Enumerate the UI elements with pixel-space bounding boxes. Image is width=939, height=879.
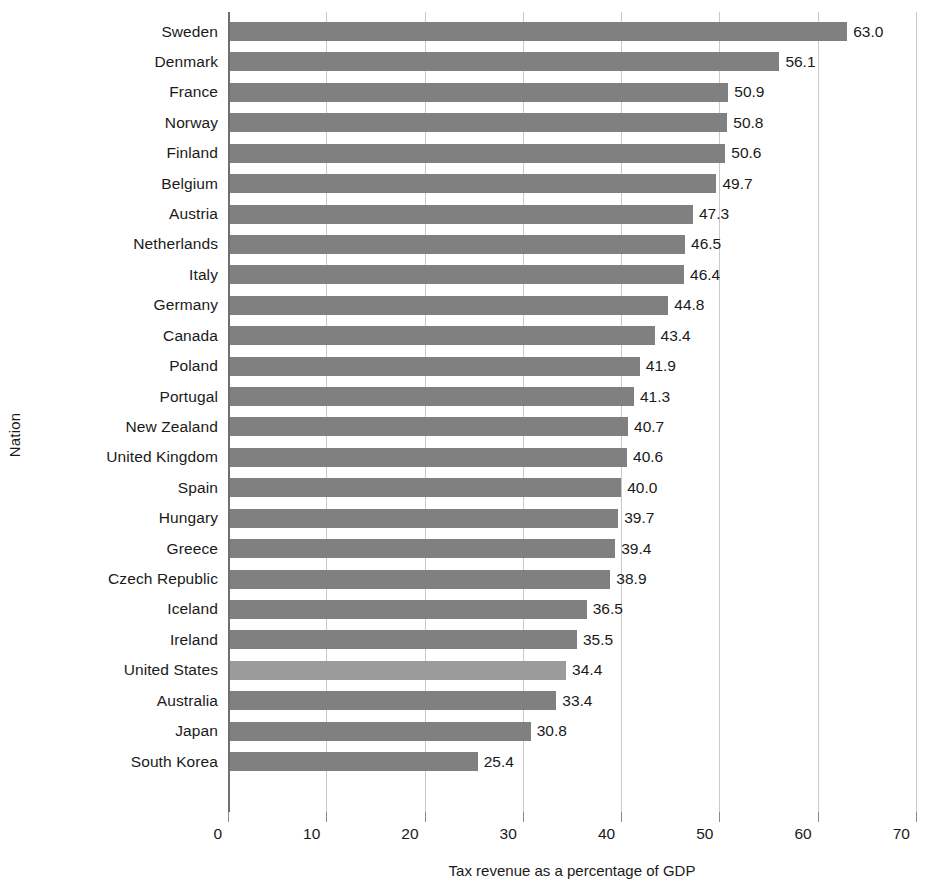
bar-value-label: 50.8 xyxy=(733,115,763,131)
x-tick-label: 10 xyxy=(270,826,320,842)
bar-value-label: 49.7 xyxy=(722,176,752,192)
x-tick-label: 50 xyxy=(663,826,713,842)
category-axis-labels: SwedenDenmarkFranceNorwayFinlandBelgiumA… xyxy=(0,0,218,812)
x-tick-mark-30 xyxy=(523,812,524,822)
category-label: Ireland xyxy=(0,632,218,648)
bar-value-label: 39.7 xyxy=(624,510,654,526)
x-tick-mark-50 xyxy=(719,812,720,822)
bar-value-label: 46.4 xyxy=(690,267,720,283)
bar-value-label: 25.4 xyxy=(484,754,514,770)
bar-value-label: 46.5 xyxy=(691,236,721,252)
x-axis-title: Tax revenue as a percentage of GDP xyxy=(228,862,916,879)
bar-value-label: 33.4 xyxy=(562,693,592,709)
category-label: Norway xyxy=(0,115,218,131)
category-label: Germany xyxy=(0,297,218,313)
bar-value-label: 39.4 xyxy=(621,541,651,557)
category-label: Iceland xyxy=(0,601,218,617)
bar-value-label: 35.5 xyxy=(583,632,613,648)
bar-value-label: 30.8 xyxy=(537,723,567,739)
x-tick-mark-70 xyxy=(916,812,917,822)
bar-value-label: 41.9 xyxy=(646,358,676,374)
bar-value-label: 34.4 xyxy=(572,662,602,678)
category-label: Canada xyxy=(0,328,218,344)
category-label: New Zealand xyxy=(0,419,218,435)
category-label: Austria xyxy=(0,206,218,222)
category-label: Netherlands xyxy=(0,236,218,252)
x-tick-mark-60 xyxy=(818,812,819,822)
category-label: Greece xyxy=(0,541,218,557)
bar-value-label: 40.6 xyxy=(633,449,663,465)
bar-value-label: 40.7 xyxy=(634,419,664,435)
category-label: South Korea xyxy=(0,754,218,770)
category-label: Denmark xyxy=(0,54,218,70)
bar-value-label: 38.9 xyxy=(616,571,646,587)
bar-value-label: 41.3 xyxy=(640,389,670,405)
x-tick-label: 0 xyxy=(172,826,222,842)
bar-value-label: 47.3 xyxy=(699,206,729,222)
bar-value-label: 40.0 xyxy=(627,480,657,496)
x-tick-label: 30 xyxy=(467,826,517,842)
value-labels: 63.056.150.950.850.649.747.346.546.444.8… xyxy=(228,12,939,812)
x-tick-mark-40 xyxy=(621,812,622,822)
category-label: Portugal xyxy=(0,389,218,405)
category-label: Sweden xyxy=(0,24,218,40)
x-axis-ticks: 010203040506070 xyxy=(0,812,939,852)
category-label: Japan xyxy=(0,723,218,739)
category-label: Belgium xyxy=(0,176,218,192)
category-label: Australia xyxy=(0,693,218,709)
x-tick-label: 70 xyxy=(860,826,910,842)
bar-value-label: 56.1 xyxy=(785,54,815,70)
category-label: United Kingdom xyxy=(0,449,218,465)
x-tick-label: 40 xyxy=(565,826,615,842)
category-label: United States xyxy=(0,662,218,678)
x-tick-label: 60 xyxy=(762,826,812,842)
category-label: Czech Republic xyxy=(0,571,218,587)
x-tick-mark-20 xyxy=(425,812,426,822)
bar-value-label: 63.0 xyxy=(853,24,883,40)
bar-value-label: 50.9 xyxy=(734,84,764,100)
category-label: Italy xyxy=(0,267,218,283)
category-label: Finland xyxy=(0,145,218,161)
x-tick-label: 20 xyxy=(369,826,419,842)
bar-value-label: 50.6 xyxy=(731,145,761,161)
category-label: Poland xyxy=(0,358,218,374)
bar-value-label: 43.4 xyxy=(661,328,691,344)
bar-value-label: 44.8 xyxy=(674,297,704,313)
x-tick-mark-10 xyxy=(326,812,327,822)
bar-value-label: 36.5 xyxy=(593,601,623,617)
category-label: Spain xyxy=(0,480,218,496)
x-tick-mark-0 xyxy=(228,812,229,822)
category-label: Hungary xyxy=(0,510,218,526)
category-label: France xyxy=(0,84,218,100)
